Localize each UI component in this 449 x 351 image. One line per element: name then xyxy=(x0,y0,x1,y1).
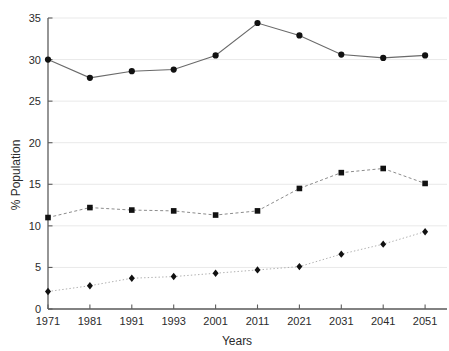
y-tick-label: 20 xyxy=(29,137,41,149)
y-axis-label: % Population xyxy=(9,140,23,211)
x-tick-label: 2021 xyxy=(287,315,311,327)
marker-series-1 xyxy=(254,20,260,26)
marker-series-3 xyxy=(171,273,177,280)
marker-series-2 xyxy=(297,186,303,192)
marker-series-2 xyxy=(129,207,135,213)
marker-series-1 xyxy=(87,75,93,81)
marker-series-1 xyxy=(129,68,135,74)
y-tick-label: 25 xyxy=(29,95,41,107)
x-tick-label: 1991 xyxy=(120,315,144,327)
line-series-2 xyxy=(48,168,425,217)
y-axis-tick-labels: 05101520253035 xyxy=(29,12,41,315)
y-tick-label: 5 xyxy=(35,261,41,273)
marker-series-2 xyxy=(339,170,345,176)
x-tick-label: 2051 xyxy=(413,315,437,327)
marker-series-2 xyxy=(422,181,428,187)
marker-series-3 xyxy=(338,250,344,257)
y-tick-label: 10 xyxy=(29,220,41,232)
marker-series-1 xyxy=(380,55,386,61)
marker-series-3 xyxy=(45,288,51,295)
line-series-1 xyxy=(48,23,425,78)
x-axis-ticks xyxy=(48,305,425,310)
marker-series-2 xyxy=(255,208,261,214)
marker-series-3 xyxy=(296,263,302,270)
x-tick-label: 2031 xyxy=(329,315,353,327)
y-tick-label: 30 xyxy=(29,54,41,66)
marker-series-2 xyxy=(171,208,177,214)
marker-series-3 xyxy=(87,282,93,289)
x-tick-label: 1971 xyxy=(36,315,60,327)
gridlines xyxy=(48,18,447,309)
chart-figure: 05101520253035 1971198119911993200120112… xyxy=(0,0,449,351)
marker-series-1 xyxy=(213,52,219,58)
x-tick-label: 2041 xyxy=(371,315,395,327)
marker-series-2 xyxy=(45,215,51,221)
x-tick-label: 1981 xyxy=(78,315,102,327)
y-tick-label: 0 xyxy=(35,303,41,315)
marker-series-2 xyxy=(380,166,386,172)
series-lines xyxy=(48,23,425,292)
y-tick-label: 15 xyxy=(29,178,41,190)
x-tick-label: 2011 xyxy=(246,315,270,327)
marker-series-3 xyxy=(213,270,219,277)
x-axis-label: Years xyxy=(222,334,252,348)
marker-series-2 xyxy=(213,212,219,218)
y-tick-label: 35 xyxy=(29,12,41,24)
axes xyxy=(48,18,447,309)
marker-series-2 xyxy=(87,205,93,211)
line-series-3 xyxy=(48,232,425,292)
marker-series-1 xyxy=(45,56,51,62)
series-markers xyxy=(45,20,428,295)
marker-series-1 xyxy=(296,32,302,38)
plot-area: 05101520253035 1971198119911993200120112… xyxy=(0,0,449,351)
x-tick-label: 1993 xyxy=(161,315,185,327)
marker-series-3 xyxy=(422,228,428,235)
x-tick-label: 2001 xyxy=(203,315,227,327)
line-chart: 05101520253035 1971198119911993200120112… xyxy=(0,0,449,351)
marker-series-3 xyxy=(380,240,386,247)
marker-series-1 xyxy=(422,52,428,58)
marker-series-1 xyxy=(338,51,344,57)
x-axis-tick-labels: 1971198119911993200120112021203120412051 xyxy=(36,315,438,327)
marker-series-3 xyxy=(129,275,135,282)
marker-series-1 xyxy=(171,66,177,72)
